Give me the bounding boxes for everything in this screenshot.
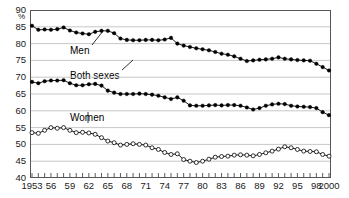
data-point — [68, 128, 72, 132]
data-point — [213, 155, 217, 159]
data-point — [283, 102, 287, 106]
data-point — [188, 104, 192, 108]
data-point — [144, 38, 148, 42]
data-point — [87, 131, 91, 135]
data-point — [201, 159, 205, 163]
data-point — [207, 49, 211, 53]
data-point — [150, 146, 154, 150]
data-point — [30, 80, 34, 84]
data-point — [74, 131, 78, 135]
data-point — [112, 141, 116, 145]
data-point — [308, 149, 312, 153]
data-point — [137, 142, 141, 146]
data-point — [182, 99, 186, 103]
data-point — [43, 79, 47, 83]
data-point — [201, 48, 205, 52]
data-point — [49, 79, 53, 83]
data-point — [245, 59, 249, 63]
data-point — [176, 42, 180, 46]
data-point — [220, 155, 224, 159]
data-point — [315, 106, 319, 110]
data-point — [125, 92, 129, 96]
data-point — [264, 104, 268, 108]
data-point — [270, 103, 274, 107]
data-point — [194, 161, 198, 165]
data-point — [150, 93, 154, 97]
data-point — [169, 97, 173, 101]
data-point — [163, 96, 167, 100]
chart-container: % 4045505560657075808590 195356596265687… — [0, 0, 349, 198]
data-point — [125, 142, 129, 146]
data-point — [251, 154, 255, 158]
data-point — [138, 92, 142, 96]
data-point — [144, 143, 148, 147]
data-point — [257, 152, 261, 156]
data-point — [182, 44, 186, 48]
data-point — [55, 126, 59, 130]
data-point — [289, 58, 293, 62]
data-point — [314, 150, 318, 154]
data-point — [270, 149, 274, 153]
data-point — [163, 38, 167, 42]
data-point — [302, 149, 306, 153]
data-point — [182, 158, 186, 162]
data-point — [188, 159, 192, 163]
data-point — [258, 58, 262, 62]
data-point — [55, 79, 59, 83]
data-point — [289, 104, 293, 108]
data-point — [232, 153, 236, 157]
data-series-women — [30, 126, 331, 165]
chart-plot-overlay — [0, 0, 349, 198]
data-point — [277, 102, 281, 106]
data-point — [62, 126, 66, 130]
leader-line-both-sexes — [122, 60, 133, 70]
data-point — [315, 62, 319, 66]
data-point — [308, 59, 312, 63]
data-point — [49, 28, 53, 32]
data-point — [239, 57, 243, 61]
data-point — [201, 104, 205, 108]
data-point — [93, 30, 97, 34]
data-point — [68, 29, 72, 33]
data-point — [49, 126, 53, 130]
data-point — [283, 145, 287, 149]
data-point — [81, 130, 85, 134]
data-point — [175, 152, 179, 156]
data-point — [131, 92, 135, 96]
data-point — [327, 113, 331, 117]
data-point — [296, 105, 300, 109]
data-point — [74, 83, 78, 87]
data-point — [226, 103, 230, 107]
data-point — [81, 32, 85, 36]
data-point — [207, 157, 211, 161]
data-point — [176, 96, 180, 100]
data-point — [68, 81, 72, 85]
data-point — [321, 65, 325, 69]
data-point — [169, 36, 173, 40]
data-point — [321, 152, 325, 156]
data-series-men — [30, 24, 331, 72]
data-point — [169, 152, 173, 156]
data-point — [118, 143, 122, 147]
data-point — [157, 38, 161, 42]
data-point — [264, 151, 268, 155]
data-point — [302, 59, 306, 63]
data-point — [36, 131, 40, 135]
data-point — [258, 106, 262, 110]
data-point — [131, 38, 135, 42]
gridlines — [31, 27, 330, 161]
data-point — [321, 110, 325, 114]
data-point — [157, 94, 161, 98]
data-point — [43, 28, 47, 32]
data-point — [245, 106, 249, 110]
data-point — [277, 56, 281, 60]
x-axis-ticks — [32, 173, 329, 177]
data-point — [213, 50, 217, 54]
data-point — [55, 27, 59, 31]
data-point — [62, 78, 66, 82]
data-point — [220, 104, 224, 108]
data-point — [30, 131, 34, 135]
data-point — [239, 104, 243, 108]
data-point — [37, 28, 41, 32]
data-point — [81, 83, 85, 87]
